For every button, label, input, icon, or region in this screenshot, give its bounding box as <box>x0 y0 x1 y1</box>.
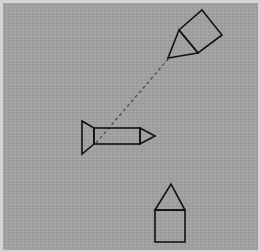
rocket-tail <box>82 121 94 154</box>
shapes-layer <box>0 0 260 252</box>
kite-agent <box>168 10 222 58</box>
kite-square <box>179 10 222 53</box>
house-body <box>155 210 185 242</box>
house-agent <box>155 184 185 242</box>
diagram-canvas <box>0 0 260 252</box>
rocket-agent <box>82 121 155 154</box>
dashed-sight-line <box>96 58 169 143</box>
rocket-body <box>94 128 140 144</box>
rocket-nose <box>140 128 155 144</box>
house-roof <box>155 184 185 210</box>
kite-triangle <box>168 30 198 58</box>
